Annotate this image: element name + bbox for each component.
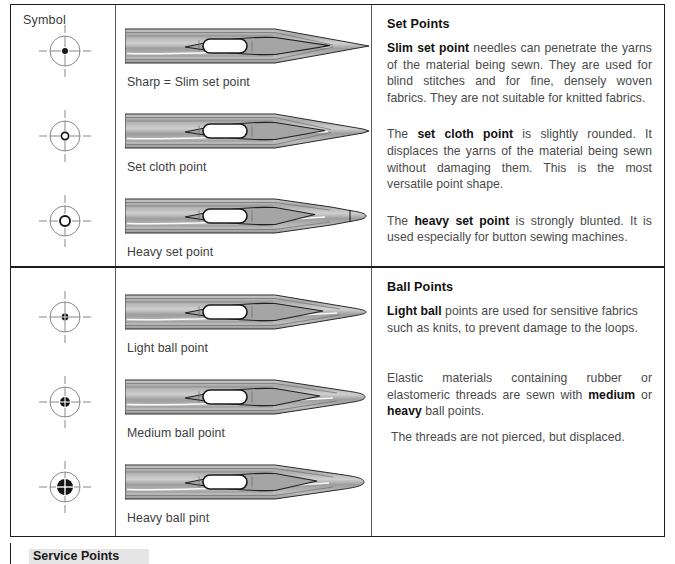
needle-caption: Medium ball point — [127, 426, 225, 440]
needle-illustration-heavy-ball-point — [125, 459, 371, 505]
needle-illustration-heavy-blunt-point — [125, 193, 371, 239]
light-ball-term: Light ball — [387, 304, 442, 318]
set-cloth-point-term: set cloth point — [417, 127, 513, 141]
needle-types-table: Symbol — [10, 4, 665, 537]
set-points-paragraph-3: The heavy set point is strongly blunted.… — [387, 213, 652, 246]
ball-points-text-panel: Ball Points Light ball points are used f… — [371, 280, 666, 446]
needle-caption: Set cloth point — [127, 160, 206, 174]
heavy-set-point-term: heavy set point — [414, 214, 509, 228]
needle-caption: Sharp = Slim set point — [127, 75, 250, 89]
conjunction: or — [635, 388, 652, 402]
needle-illustration-medium-ball-point — [125, 374, 371, 420]
cutoff-heading: Service Points — [33, 549, 119, 563]
ball-points-paragraph-3: The threads are not pierced, but displac… — [387, 429, 652, 446]
needle-caption: Light ball point — [127, 341, 208, 355]
heavy-term: heavy — [387, 404, 422, 418]
needle-point-reference-page: Symbol — [0, 0, 675, 564]
ball-points-heading: Ball Points — [387, 280, 652, 294]
set-points-paragraph-1: Slim set point needles can penetrate the… — [387, 40, 652, 106]
column-divider-symbol — [115, 5, 116, 536]
heavy-set-prefix: The — [387, 214, 414, 228]
needle-illustration-light-ball-point — [125, 289, 371, 335]
symbol-slim-set-point — [37, 23, 93, 79]
slim-set-point-term: Slim set point — [387, 41, 469, 55]
cutoff-section-footer: Service Points — [10, 543, 665, 564]
needle-illustration-set-cloth-point — [125, 108, 371, 154]
symbol-set-cloth-point — [37, 108, 93, 164]
elastic-body: ball points. — [422, 404, 484, 418]
section-divider — [11, 266, 664, 268]
symbol-heavy-set-point — [37, 193, 93, 249]
ball-points-paragraph-1: Light ball points are used for sensitive… — [387, 303, 652, 336]
set-points-text-panel: Set Points Slim set point needles can pe… — [371, 17, 666, 246]
needle-illustration-sharp-taper-point — [125, 23, 371, 69]
needle-caption: Heavy set point — [127, 245, 213, 259]
symbol-light-ball-point — [37, 289, 93, 345]
symbol-medium-ball-point — [37, 374, 93, 430]
symbol-heavy-ball-point — [37, 459, 93, 515]
needle-caption: Heavy ball pint — [127, 511, 209, 525]
medium-term: medium — [588, 388, 635, 402]
set-cloth-prefix: The — [387, 127, 417, 141]
set-points-heading: Set Points — [387, 17, 652, 31]
ball-points-paragraph-2: Elastic materials containing rubber or e… — [387, 370, 652, 420]
set-points-paragraph-2: The set cloth point is slightly rounded.… — [387, 126, 652, 192]
